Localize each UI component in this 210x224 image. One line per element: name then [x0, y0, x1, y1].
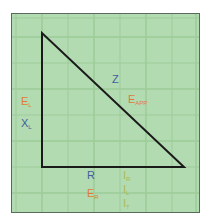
label-e-l: EL — [21, 96, 32, 108]
label-z: Z — [112, 74, 119, 85]
impedance-triangle — [12, 14, 200, 213]
label-r: R — [87, 170, 95, 181]
label-e-app: EAPP — [128, 94, 147, 106]
label-i-t: IT — [123, 198, 130, 210]
diagram-panel — [11, 13, 200, 213]
label-i-r: IR — [123, 170, 130, 182]
label-x-l: XL — [21, 118, 32, 130]
label-i-l: IL — [123, 184, 129, 196]
label-e-r: ER — [87, 188, 99, 200]
